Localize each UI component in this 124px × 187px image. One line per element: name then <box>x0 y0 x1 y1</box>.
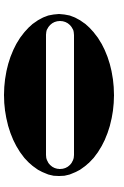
letter-o-glyph <box>0 0 124 187</box>
glyph-canvas: O <box>0 0 124 187</box>
